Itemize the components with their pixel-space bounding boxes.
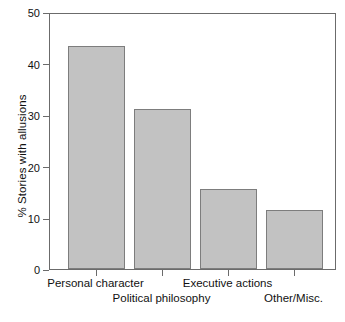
y-tick-label-20: 20	[12, 163, 40, 174]
x-tick-mark-1	[162, 270, 163, 276]
x-tick-mark-2	[228, 270, 229, 276]
bar-other-misc	[266, 210, 323, 269]
y-tick-label-10: 10	[12, 214, 40, 225]
x-label-other-misc: Other/Misc.	[239, 292, 345, 304]
y-tick-label-0: 0	[12, 265, 40, 276]
x-tick-mark-0	[96, 270, 97, 276]
plot-area	[49, 13, 336, 270]
y-tick-mark-0	[43, 270, 49, 271]
bar-chart: % Stories with allusions 50 40 30 20 10 …	[0, 0, 345, 322]
y-tick-label-50: 50	[12, 8, 40, 19]
y-axis-title: % Stories with allusions	[16, 51, 28, 261]
x-label-executive-actions: Executive actions	[168, 277, 288, 289]
bar-executive-actions	[200, 189, 257, 269]
x-label-personal-character: Personal character	[36, 277, 156, 289]
bar-political-philosophy	[134, 109, 191, 269]
x-label-political-philosophy: Political philosophy	[102, 292, 222, 304]
bar-personal-character	[68, 46, 125, 269]
x-tick-mark-3	[294, 270, 295, 276]
y-tick-label-30: 30	[12, 111, 40, 122]
y-tick-label-40: 40	[12, 60, 40, 71]
